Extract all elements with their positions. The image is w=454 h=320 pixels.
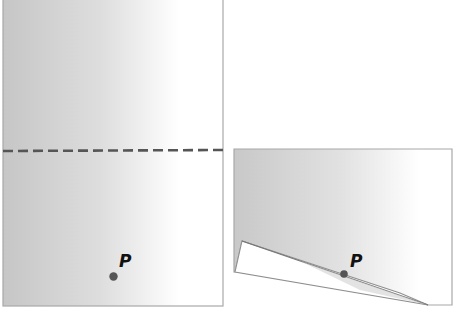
fold-line-dashed bbox=[3, 150, 223, 151]
point-p-marker bbox=[109, 272, 117, 280]
right-panel: P bbox=[234, 149, 452, 305]
point-p-label-folded: P bbox=[350, 251, 363, 271]
left-panel: P bbox=[3, 0, 223, 306]
point-p-label: P bbox=[119, 251, 132, 271]
paper-sheet bbox=[3, 0, 223, 306]
point-p-marker-folded bbox=[340, 270, 348, 278]
folding-diagram: P P bbox=[0, 0, 454, 320]
